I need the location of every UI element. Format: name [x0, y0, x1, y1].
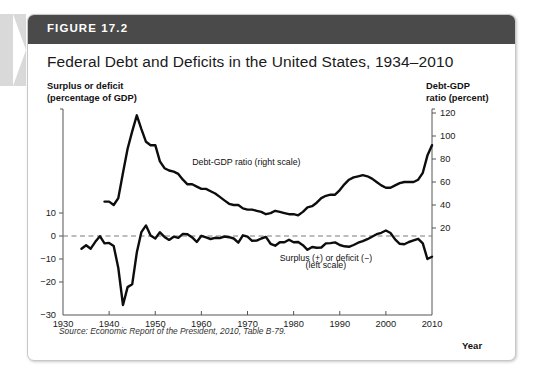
svg-text:80: 80 [440, 154, 450, 164]
svg-text:1980: 1980 [283, 319, 304, 329]
svg-text:1990: 1990 [329, 319, 350, 329]
left-axis-ticks: 100−10−20−30 [40, 208, 63, 320]
svg-text:2010: 2010 [422, 319, 443, 329]
svg-text:Debt-GDP ratio (right scale): Debt-GDP ratio (right scale) [192, 157, 300, 167]
page-bookmark-tab [0, 14, 26, 86]
svg-text:60: 60 [440, 177, 450, 187]
svg-text:−10: −10 [40, 254, 56, 264]
x-axis-label: Year [462, 340, 482, 351]
source-note: Source: Economic Report of the President… [59, 326, 286, 336]
figure-card: FIGURE 17.2 Federal Debt and Deficits in… [27, 14, 516, 361]
svg-text:2000: 2000 [376, 319, 397, 329]
left-axis-line [60, 109, 63, 315]
chart-plot-area: 100−10−20−30 12010080604020 193019401950… [28, 15, 515, 360]
svg-text:20: 20 [440, 223, 450, 233]
chart-svg: 100−10−20−30 12010080604020 193019401950… [28, 15, 515, 360]
svg-text:0: 0 [51, 231, 56, 241]
svg-text:100: 100 [440, 131, 456, 141]
svg-text:10: 10 [46, 208, 56, 218]
svg-text:−20: −20 [40, 277, 56, 287]
svg-text:(left scale): (left scale) [306, 260, 347, 270]
svg-text:40: 40 [440, 200, 450, 210]
chart-axes [60, 109, 435, 315]
right-axis-ticks: 12010080604020 [432, 108, 456, 233]
svg-text:120: 120 [440, 108, 456, 118]
series-surplus-deficit [82, 225, 433, 305]
right-axis-line [432, 109, 435, 315]
